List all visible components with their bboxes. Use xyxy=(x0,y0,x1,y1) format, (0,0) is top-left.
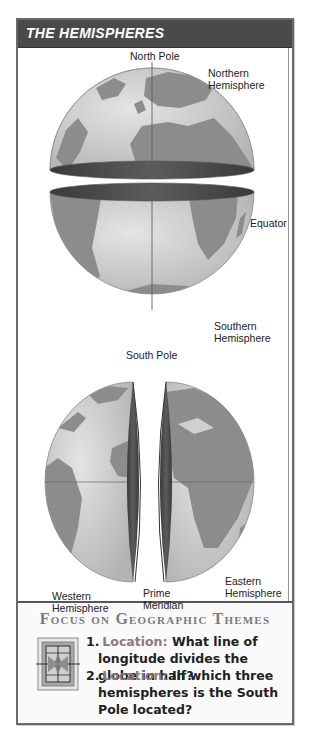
label-prime-meridian-line2: Meridian xyxy=(143,599,183,611)
label-southern-hemisphere-line2: Hemisphere xyxy=(214,332,271,344)
question-1-theme: Location: xyxy=(102,634,167,649)
label-south-pole: South Pole xyxy=(126,349,177,361)
eastern-hemisphere-shape xyxy=(158,382,254,582)
question-2: 2. Location: In which three hemispheres … xyxy=(98,667,288,718)
hemispheres-panel: THE HEMISPHERES xyxy=(16,18,294,725)
title-bar: THE HEMISPHERES xyxy=(18,20,292,48)
label-southern-hemisphere-line1: Southern xyxy=(214,320,257,332)
western-hemisphere-shape xyxy=(44,382,141,582)
label-eastern-hemisphere-line2: Hemisphere xyxy=(225,587,282,599)
panel-title: THE HEMISPHERES xyxy=(26,25,164,41)
question-1-number: 1. xyxy=(86,633,98,650)
label-north-pole: North Pole xyxy=(130,50,180,62)
compass-rose-icon xyxy=(36,636,80,692)
question-2-number: 2. xyxy=(86,667,98,684)
hemispheres-diagram: North Pole Northern Hemisphere Equator S… xyxy=(18,48,292,601)
question-2-theme: Location: xyxy=(102,668,167,683)
label-northern-hemisphere-line1: Northern xyxy=(208,67,249,79)
label-equator: Equator xyxy=(250,217,287,229)
southern-hemisphere-shape xyxy=(50,183,254,310)
label-prime-meridian-line1: Prime xyxy=(143,587,170,599)
label-western-hemisphere-line1b: Western xyxy=(52,590,91,602)
label-western-hemisphere-line2: Hemisphere xyxy=(52,602,109,614)
label-northern-hemisphere-line2: Hemisphere xyxy=(208,79,265,91)
label-eastern-hemisphere-line1: Eastern xyxy=(225,575,261,587)
focus-box: Focus on Geographic Themes 1. Location: … xyxy=(18,603,292,723)
